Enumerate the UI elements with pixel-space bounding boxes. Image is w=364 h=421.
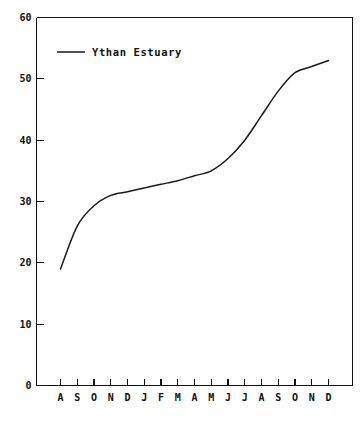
y-tick-label-30: 30 xyxy=(19,196,31,207)
x-tick-label-11: J xyxy=(242,392,248,403)
chart-legend: Ythan Estuary xyxy=(57,46,182,58)
x-tick-label-13: S xyxy=(275,392,281,403)
series-line-ythan-estuary xyxy=(61,60,329,269)
x-tick-label-7: M xyxy=(175,392,181,403)
x-tick-label-12: A xyxy=(258,392,264,403)
x-tick-label-0: A xyxy=(57,392,63,403)
data-series-group xyxy=(61,60,329,269)
x-tick-label-2: O xyxy=(91,392,97,403)
y-tick-label-40: 40 xyxy=(19,135,31,146)
x-tick-label-16: D xyxy=(325,392,331,403)
y-tick-label-0: 0 xyxy=(25,380,31,391)
x-tick-label-6: F xyxy=(158,392,164,403)
y-tick-label-50: 50 xyxy=(19,73,31,84)
y-tick-label-20: 20 xyxy=(19,257,31,268)
y-tick-label-60: 60 xyxy=(19,12,31,23)
x-tick-label-4: D xyxy=(124,392,130,403)
x-tick-label-9: M xyxy=(208,392,214,403)
x-tick-label-15: N xyxy=(309,392,315,403)
x-tick-label-10: J xyxy=(225,392,231,403)
plot-frame xyxy=(37,18,353,386)
x-axis-ticks xyxy=(61,379,329,386)
line-chart-plot: 0102030405060 ASONDJFMAMJJASOND Ythan Es… xyxy=(0,0,364,421)
y-tick-label-10: 10 xyxy=(19,319,31,330)
x-tick-label-3: N xyxy=(108,392,114,403)
y-axis-tick-labels: 0102030405060 xyxy=(19,12,31,391)
x-axis-tick-labels: ASONDJFMAMJJASOND xyxy=(57,392,331,403)
chart-container: 0102030405060 ASONDJFMAMJJASOND Ythan Es… xyxy=(0,0,364,421)
x-tick-label-5: J xyxy=(141,392,147,403)
legend-label-ythan-estuary: Ythan Estuary xyxy=(92,46,182,58)
x-tick-label-14: O xyxy=(292,392,298,403)
x-tick-label-1: S xyxy=(74,392,80,403)
x-tick-label-8: A xyxy=(191,392,197,403)
y-axis-ticks xyxy=(37,18,44,386)
